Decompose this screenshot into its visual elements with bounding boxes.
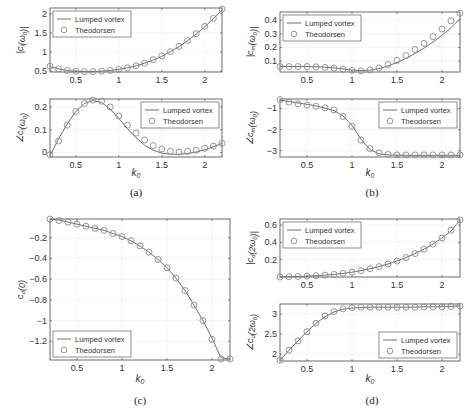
figure: 0.511.520.511.52|cl(ω0)|Lumped vortexThe… — [0, 0, 474, 415]
marker-theodorsen — [133, 130, 139, 136]
marker-theodorsen — [64, 122, 70, 128]
y-tick-label: −0.4 — [29, 253, 47, 263]
plots-canvas: 0.511.520.511.52|cl(ω0)|Lumped vortexThe… — [0, 0, 474, 415]
x-tick-label: 0.5 — [71, 363, 84, 373]
y-tick-label: 3 — [272, 309, 277, 319]
y-axis-label: ∠cm(ω0) — [245, 111, 259, 145]
y-tick-label: −1 — [267, 103, 277, 113]
x-tick-label: 0.5 — [301, 160, 314, 170]
legend-label-theodorsen: Theodorsen — [75, 26, 115, 35]
legend-label-lumped-vortex: Lumped vortex — [163, 106, 213, 115]
y-tick-label: 2 — [272, 349, 277, 359]
legend: Lumped vortexTheodorsen — [379, 332, 457, 358]
x-axis-label: k0 — [132, 167, 141, 179]
y-tick-label: 1 — [42, 47, 47, 57]
y-tick-label: 0.1 — [264, 56, 277, 66]
x-axis-label: k0 — [366, 167, 375, 179]
caption-d: (d) — [352, 394, 392, 406]
y-tick-label: −2 — [267, 125, 277, 135]
x-tick-label: 2 — [439, 364, 444, 374]
y-tick-label: 2.5 — [264, 329, 277, 339]
legend: Lumped vortexTheodorsen — [53, 11, 131, 37]
y-axis-label: |cd(2ω0)| — [245, 231, 259, 265]
x-tick-label: 1.5 — [156, 75, 169, 85]
x-tick-label: 1.5 — [156, 160, 169, 170]
y-tick-label: 1.5 — [34, 28, 47, 38]
marker-theodorsen — [358, 137, 364, 143]
y-tick-label: 0.5 — [34, 66, 47, 76]
legend-label-lumped-vortex: Lumped vortex — [401, 106, 451, 115]
marker-theodorsen — [421, 40, 427, 46]
y-tick-label: 0.3 — [264, 29, 277, 39]
x-tick-label: 0.5 — [70, 160, 83, 170]
y-axis-label: ∠cl(ω0) — [15, 113, 29, 143]
legend: Lumped vortexTheodorsen — [283, 15, 361, 41]
legend: Lumped vortexTheodorsen — [379, 102, 457, 128]
y-axis-label: |cm(ω0)| — [245, 27, 259, 58]
y-tick-label: 0.4 — [264, 237, 277, 247]
caption-b: (b) — [352, 186, 392, 198]
x-axis-label: k0 — [366, 373, 375, 385]
plot-d_bottom: 0.511.5222.53∠cd(2ω0)k0Lumped vortexTheo… — [245, 303, 463, 385]
y-tick-label: 0.2 — [264, 255, 277, 265]
plot-b_bottom: 0.511.52−3−2−1∠cm(ω0)k0Lumped vortexTheo… — [245, 97, 463, 179]
y-axis-label: |cl(ω0)| — [15, 27, 29, 54]
x-tick-label: 1 — [349, 75, 354, 85]
marker-theodorsen — [295, 101, 301, 107]
x-tick-label: 1.5 — [391, 160, 404, 170]
x-tick-label: 0.5 — [301, 364, 314, 374]
y-tick-label: −1 — [37, 316, 47, 326]
legend-label-theodorsen: Theodorsen — [401, 117, 441, 126]
legend-label-theodorsen: Theodorsen — [75, 346, 115, 355]
x-tick-label: 1.5 — [391, 75, 404, 85]
y-tick-label: −0.6 — [29, 274, 47, 284]
marker-theodorsen — [448, 18, 454, 24]
x-tick-label: 2 — [439, 280, 444, 290]
x-tick-label: 1.5 — [391, 280, 404, 290]
x-tick-label: 2 — [439, 75, 444, 85]
x-tick-label: 1.5 — [391, 364, 404, 374]
plot-a_bottom: 0.511.5200.10.2∠cl(ω0)k0Lumped vortexThe… — [15, 97, 225, 179]
legend-label-theodorsen: Theodorsen — [401, 347, 441, 356]
y-tick-label: 0 — [42, 147, 47, 157]
marker-theodorsen — [124, 122, 130, 128]
caption-a: (a) — [116, 186, 156, 198]
x-tick-label: 1 — [349, 280, 354, 290]
legend: Lumped vortexTheodorsen — [283, 222, 361, 248]
x-tick-label: 1 — [116, 160, 121, 170]
plot-a_top: 0.511.520.511.52|cl(ω0)|Lumped vortexThe… — [15, 6, 225, 85]
x-tick-label: 0.5 — [301, 75, 314, 85]
x-tick-label: 1 — [349, 160, 354, 170]
x-tick-label: 1 — [349, 364, 354, 374]
y-tick-label: −0.2 — [29, 233, 47, 243]
x-tick-label: 1.5 — [161, 363, 174, 373]
marker-theodorsen — [448, 227, 454, 233]
y-tick-label: 0.6 — [264, 220, 277, 230]
x-axis-label: k0 — [136, 373, 145, 385]
plot-d_top: 0.511.520.20.40.6|cd(2ω0)|Lumped vortexT… — [245, 217, 463, 290]
x-tick-label: 0.5 — [70, 75, 83, 85]
y-tick-label: −1.2 — [29, 336, 47, 346]
x-tick-label: 2 — [439, 160, 444, 170]
marker-theodorsen — [167, 148, 173, 154]
y-tick-label: 0.2 — [264, 42, 277, 52]
plot-b_top: 0.511.520.10.20.30.4|cm(ω0)|Lumped vorte… — [245, 10, 463, 85]
caption-c: (c) — [120, 394, 160, 406]
legend: Lumped vortexTheodorsen — [141, 102, 219, 128]
y-tick-label: 0.2 — [34, 102, 47, 112]
legend-label-lumped-vortex: Lumped vortex — [75, 335, 125, 344]
y-axis-label: ∠cd(2ω0) — [245, 314, 259, 351]
plot-c: 0.511.52−1.2−1−0.8−0.6−0.4−0.2cd(0)k0Lum… — [15, 216, 233, 385]
x-tick-label: 1 — [116, 75, 121, 85]
legend: Lumped vortexTheodorsen — [53, 331, 131, 357]
marker-theodorsen — [142, 137, 148, 143]
x-tick-label: 1 — [119, 363, 124, 373]
y-tick-label: 0.4 — [264, 15, 277, 25]
legend-label-theodorsen: Theodorsen — [163, 117, 203, 126]
legend-label-lumped-vortex: Lumped vortex — [305, 226, 355, 235]
x-tick-label: 2 — [202, 75, 207, 85]
legend-label-lumped-vortex: Lumped vortex — [305, 19, 355, 28]
y-tick-label: 2 — [42, 9, 47, 19]
legend-label-lumped-vortex: Lumped vortex — [401, 336, 451, 345]
x-tick-label: 0.5 — [301, 280, 314, 290]
